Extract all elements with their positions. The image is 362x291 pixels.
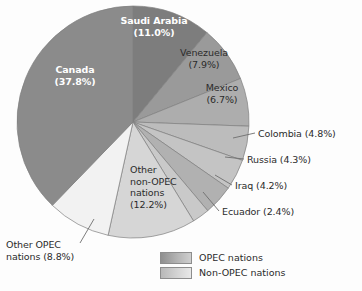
slice-label-mexico: Mexico (6.7%)	[191, 82, 253, 105]
slice-label-saudi-arabia: Saudi Arabia (11.0%)	[113, 15, 195, 38]
slice-label-russia: Russia (4.3%)	[247, 154, 311, 166]
slice-label-iraq: Iraq (4.2%)	[235, 180, 287, 192]
slice-label-other-non-opec: Other non-OPEC nations (12.2%)	[130, 164, 202, 210]
legend-item-non-opec: Non-OPEC nations	[160, 265, 285, 280]
pie-chart: Saudi Arabia (11.0%) Canada (37.8%) Vene…	[0, 0, 362, 291]
slice-label-other-opec: Other OPEC nations (8.8%)	[6, 239, 118, 262]
slice-label-ecuador: Ecuador (2.4%)	[222, 206, 294, 218]
slice-label-colombia: Colombia (4.8%)	[258, 128, 336, 140]
slice-label-venezuela: Venezuela (7.9%)	[168, 47, 240, 70]
legend-swatch-non-opec-icon	[160, 267, 192, 279]
slice-label-canada: Canada (37.8%)	[37, 64, 113, 87]
legend-item-opec: OPEC nations	[160, 250, 285, 265]
legend-swatch-opec-icon	[160, 252, 192, 264]
legend-label-opec: OPEC nations	[199, 252, 263, 263]
legend: OPEC nations Non-OPEC nations	[160, 250, 285, 280]
legend-label-non-opec: Non-OPEC nations	[199, 267, 285, 278]
